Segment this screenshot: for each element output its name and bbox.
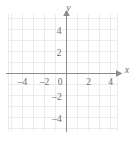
x-tick-label-neg2: –2	[39, 77, 50, 87]
y-tick-label-pos4: 4	[57, 26, 62, 36]
x-axis-arrowhead	[116, 70, 123, 77]
y-axis-name-label: y	[65, 2, 71, 13]
coordinate-plane-svg: x y –4 –2 0 2 4 4 2 –2 –4	[0, 0, 139, 146]
x-tick-label-zero: 0	[58, 77, 63, 87]
y-tick-label-pos2: 2	[57, 48, 62, 58]
y-tick-label-neg4: –4	[51, 114, 62, 124]
x-tick-label-pos2: 2	[86, 77, 91, 87]
x-tick-label-neg4: –4	[17, 77, 28, 87]
x-tick-label-pos4: 4	[108, 77, 113, 87]
y-tick-label-neg2: –2	[51, 92, 62, 102]
grid-lines	[9, 14, 118, 131]
coordinate-plane-figure: x y –4 –2 0 2 4 4 2 –2 –4	[0, 0, 139, 146]
x-axis-name-label: x	[124, 64, 130, 75]
